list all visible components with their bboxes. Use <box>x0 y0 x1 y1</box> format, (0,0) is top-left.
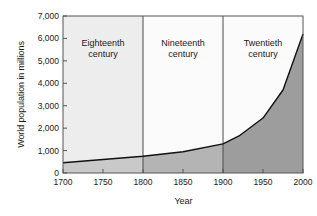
x-axis-title: Year <box>63 196 304 207</box>
x-tick-label: 1800 <box>123 177 163 187</box>
x-tick-label: 1700 <box>43 177 83 187</box>
x-tick-label: 1850 <box>163 177 203 187</box>
century-caption-line1: Twentieth <box>218 38 308 49</box>
century-caption-line1: Eighteenth <box>58 38 148 49</box>
y-axis-title: World population in millions <box>14 16 28 173</box>
century-caption-line2: century <box>218 49 308 60</box>
population-chart: 01,0002,0003,0004,0005,0006,0007,000 170… <box>0 0 317 216</box>
century-caption-line2: century <box>138 49 228 60</box>
century-caption: Twentiethcentury <box>218 38 308 60</box>
century-caption-line2: century <box>58 49 148 60</box>
x-tick-label: 2000 <box>283 177 317 187</box>
century-caption-line1: Nineteenth <box>138 38 228 49</box>
x-tick-label: 1900 <box>203 177 243 187</box>
century-caption: Nineteenthcentury <box>138 38 228 60</box>
x-tick-label: 1950 <box>243 177 283 187</box>
x-tick-label: 1750 <box>83 177 123 187</box>
century-caption: Eighteenthcentury <box>58 38 148 60</box>
